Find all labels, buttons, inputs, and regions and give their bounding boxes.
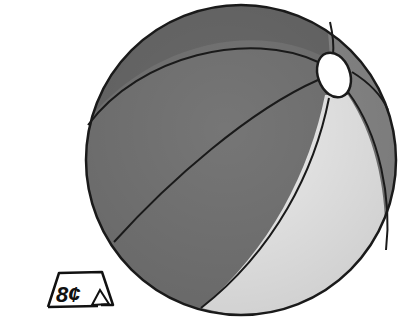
beach-ball xyxy=(80,0,410,334)
price-label: 8¢ xyxy=(56,282,81,307)
price-tag: 8¢ xyxy=(48,272,113,307)
beach-ball-illustration: 8¢ xyxy=(0,0,410,334)
